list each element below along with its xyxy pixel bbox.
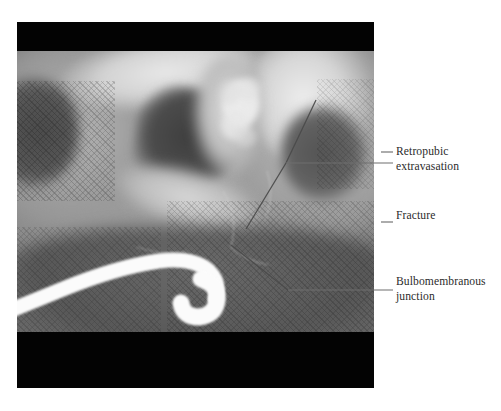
callout-bulbomembranous-junction: Bulbomembranous junction [396,275,486,305]
callout-bulbo-line2: junction [396,290,486,305]
callout-retropubic-line1: Retropubic [396,145,449,158]
letterbox-band-bottom [17,332,374,388]
callout-fracture-line1: Fracture [396,209,435,222]
letterbox-band-top [17,22,374,51]
callout-retropubic-extravasation: Retropubic extravasation [396,145,459,175]
xray-field [17,51,374,332]
fine-streaks [17,51,374,332]
callout-fracture: Fracture [396,209,435,224]
callout-retropubic-line2: extravasation [396,160,459,175]
callout-bulbo-line1: Bulbomembranous [396,275,486,288]
figure-root: Retropubic extravasation Fracture Bulbom… [0,0,501,411]
radiograph-image [17,22,374,388]
